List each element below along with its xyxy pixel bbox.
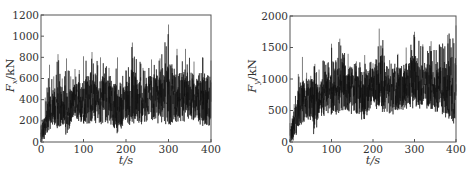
x-axis-label: t/s <box>366 153 380 167</box>
svg-text:Fx/kN: Fx/kN <box>3 59 19 93</box>
y-tick-label: 600 <box>19 72 39 84</box>
chart-fx: 0100200300400020040060080010001200t/sFx/… <box>0 0 235 174</box>
y-axis-label: Fx/kN <box>3 59 19 93</box>
y-tick-label: 0 <box>281 136 288 148</box>
y-tick-label: 800 <box>19 51 39 63</box>
y-axis-label: Fy/kN <box>245 59 261 93</box>
chart-fy: 01002003004000500100015002000t/sFy/kN <box>235 0 469 174</box>
signal-line <box>290 25 456 142</box>
x-tick-label: 400 <box>446 143 466 155</box>
y-tick-label: 400 <box>19 93 39 105</box>
x-tick-label: 400 <box>201 143 221 155</box>
signal-line <box>41 25 211 142</box>
x-tick-label: 100 <box>321 143 341 155</box>
y-tick-label: 0 <box>32 136 39 148</box>
svg-text:Fy/kN: Fy/kN <box>245 59 261 93</box>
x-axis-label: t/s <box>119 153 133 167</box>
y-tick-label: 500 <box>268 104 288 116</box>
y-tick-label: 1000 <box>12 30 39 42</box>
x-tick-label: 300 <box>158 143 178 155</box>
y-tick-label: 2000 <box>261 10 288 22</box>
x-tick-label: 100 <box>73 143 93 155</box>
y-tick-label: 1500 <box>261 41 288 53</box>
y-tick-label: 200 <box>19 114 39 126</box>
y-tick-label: 1000 <box>261 73 288 85</box>
y-tick-label: 1200 <box>12 9 39 21</box>
x-tick-label: 300 <box>404 143 424 155</box>
